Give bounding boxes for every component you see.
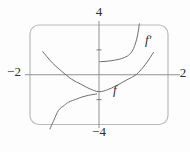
curve-f-prime-positive-branch (100, 24, 140, 62)
function-derivative-plot: 4 −4 −2 2 f f′ (0, 0, 190, 152)
y-max-label: 4 (96, 4, 103, 19)
graph-figure: 4 −4 −2 2 f f′ (0, 0, 190, 152)
y-min-label: −4 (92, 124, 106, 139)
curve-f-prime-negative-branch (50, 94, 97, 129)
f-prime-curve-label: f′ (145, 32, 152, 47)
x-max-label: 2 (180, 65, 187, 80)
curve-f (43, 52, 154, 92)
x-min-label: −2 (7, 64, 21, 79)
